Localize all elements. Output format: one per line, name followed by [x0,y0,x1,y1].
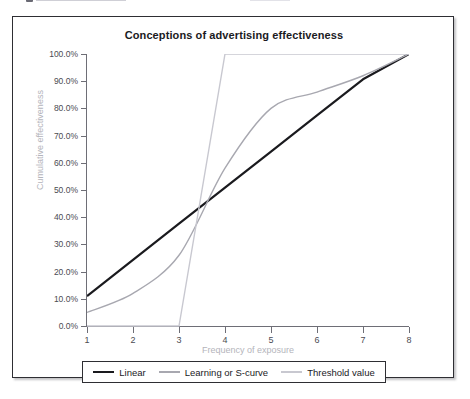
y-axis-tick-label: 40.0% [54,212,78,222]
x-axis-tick [409,327,410,333]
legend-label: Linear [119,367,145,378]
cropped-text-line [36,0,126,1]
x-axis-tick-label: 1 [84,335,89,345]
x-axis-tick-label: 7 [360,335,365,345]
y-axis-tick-label: 80.0% [54,103,78,113]
y-axis-tick-label: 50.0% [54,185,78,195]
y-axis-tick-label: 100.0% [49,49,78,59]
y-axis-tick-label: 20.0% [54,267,78,277]
legend-swatch-icon [281,371,302,373]
chart-legend: LinearLearning or S-curveThreshold value [82,361,386,383]
y-axis-tick-label: 30.0% [54,239,78,249]
plot-area: 0.0%10.0%20.0%30.0%40.0%50.0%60.0%70.0%8… [87,54,409,326]
x-axis-tick-label: 6 [314,335,319,345]
series-line-linear [87,54,409,296]
series-svg [87,54,409,328]
chart-figure: Conceptions of advertising effectiveness… [12,16,454,378]
legend-label: Threshold value [307,367,375,378]
y-axis-tick-label: 0.0% [59,321,78,331]
legend-label: Learning or S-curve [185,367,268,378]
x-axis-tick-label: 2 [130,335,135,345]
y-axis-tick-label: 10.0% [54,294,78,304]
x-axis-tick-label: 8 [406,335,411,345]
y-axis-title: Cumulative effectiveness [35,90,45,190]
series-line-learning-or-s-curve [87,54,409,312]
x-axis-tick-label: 4 [222,335,227,345]
series-line-threshold-value [87,54,409,326]
cropped-glyph [26,0,33,2]
legend-item[interactable]: Linear [93,367,145,378]
chart-title: Conceptions of advertising effectiveness [13,29,455,41]
x-axis-title: Frequency of exposure [87,345,409,355]
cropped-text-line-secondary [250,0,290,1]
plot-series-surface [87,54,409,326]
page-top-sliver [0,0,470,6]
legend-item[interactable]: Threshold value [281,367,375,378]
y-axis-tick-label: 90.0% [54,76,78,86]
legend-swatch-icon [159,371,180,373]
x-axis-tick-label: 5 [268,335,273,345]
y-axis-tick-label: 60.0% [54,158,78,168]
x-axis-tick-label: 3 [176,335,181,345]
legend-swatch-icon [93,371,114,373]
legend-item[interactable]: Learning or S-curve [159,367,268,378]
y-axis-tick-label: 70.0% [54,131,78,141]
